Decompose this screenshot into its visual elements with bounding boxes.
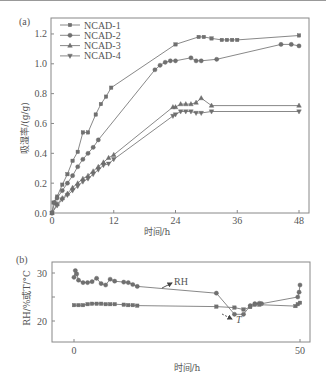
data-point	[81, 303, 84, 306]
y-tick-label: 0.4	[35, 148, 48, 159]
y-tick-label: 0.8	[35, 88, 48, 99]
data-point	[289, 42, 293, 46]
data-point	[220, 38, 223, 41]
data-point	[158, 63, 162, 67]
panel-a-legend: NCAD-1NCAD-2NCAD-3NCAD-4	[60, 20, 121, 62]
data-point	[109, 86, 112, 89]
data-point	[85, 281, 89, 285]
data-point	[215, 305, 218, 308]
data-point	[215, 57, 219, 61]
data-point	[75, 272, 79, 276]
data-point	[122, 303, 125, 306]
data-point	[61, 183, 64, 186]
data-point	[194, 59, 198, 63]
data-point	[298, 301, 301, 304]
data-point	[106, 155, 111, 159]
y-tick-label: 20	[37, 316, 47, 327]
data-point	[174, 43, 177, 46]
data-point	[199, 96, 204, 100]
data-point	[136, 304, 139, 307]
data-point	[86, 151, 90, 155]
panel-b: (b) 2030 050 RHT 时间/h RH/%或T/°C	[16, 254, 310, 373]
data-point	[104, 283, 108, 287]
data-point	[189, 56, 193, 60]
data-point	[297, 290, 301, 294]
legend-label: NCAD-4	[84, 50, 121, 61]
y-tick-label: 1.2	[35, 28, 48, 39]
data-point	[96, 138, 100, 142]
data-point	[66, 173, 69, 176]
y-tick-label: 0.0	[35, 208, 48, 219]
x-tick-label: 0	[50, 215, 55, 226]
data-point	[86, 303, 89, 306]
data-point	[72, 303, 75, 306]
data-point	[94, 113, 97, 116]
series-line	[52, 44, 299, 213]
data-point	[113, 303, 116, 306]
panel-a-x-ticks: 012243648	[50, 210, 305, 226]
data-point	[99, 302, 102, 305]
series-line	[74, 303, 300, 310]
data-point	[91, 145, 95, 149]
data-point	[90, 280, 94, 284]
data-point	[258, 303, 261, 306]
y-tick-label: 1.0	[35, 58, 48, 69]
data-point	[99, 102, 102, 105]
data-point	[214, 291, 218, 295]
data-point	[104, 95, 107, 98]
data-point	[77, 303, 80, 306]
x-tick-label: 48	[294, 215, 304, 226]
data-point	[99, 281, 103, 285]
legend-marker-icon	[68, 23, 71, 26]
x-tick-label: 12	[109, 215, 119, 226]
data-point	[71, 159, 74, 162]
data-point	[81, 281, 85, 285]
panel-a: (a) 0.00.20.40.60.81.01.2 012243648 NCAD…	[19, 16, 309, 237]
x-tick-label: 36	[232, 215, 242, 226]
data-point	[236, 38, 239, 41]
x-tick-label: 0	[72, 345, 77, 356]
data-point	[297, 34, 300, 37]
data-point	[76, 278, 80, 282]
data-point	[60, 189, 64, 193]
data-point	[249, 305, 252, 308]
series-ncad-2	[50, 42, 301, 215]
data-point	[173, 59, 177, 63]
data-point	[197, 35, 200, 38]
data-point	[297, 44, 301, 48]
data-point	[127, 303, 130, 306]
data-point	[65, 181, 69, 185]
data-point	[210, 37, 213, 40]
data-point	[233, 306, 236, 309]
data-point	[76, 165, 80, 169]
data-point	[225, 38, 228, 41]
data-point	[95, 302, 98, 305]
data-point	[76, 150, 79, 153]
data-point	[202, 35, 205, 38]
data-point	[279, 42, 283, 46]
legend-item-ncad-4: NCAD-4	[60, 50, 121, 61]
legend-marker-icon	[68, 33, 72, 37]
rh-arrow-icon	[162, 283, 172, 288]
data-point	[126, 281, 130, 285]
panel-a-x-axis-label: 时间/h	[144, 226, 171, 237]
data-point	[253, 303, 256, 306]
data-point	[111, 152, 116, 156]
data-point	[113, 279, 117, 283]
y-tick-label: 0.6	[35, 118, 48, 129]
series-line	[52, 112, 299, 214]
panel-a-y-axis-label: 吸湿率/(g/g)	[19, 102, 30, 154]
x-tick-label: 24	[171, 215, 181, 226]
data-point	[95, 276, 99, 280]
data-point	[108, 303, 111, 306]
data-point	[81, 157, 85, 161]
y-tick-label: 30	[37, 268, 47, 279]
data-point	[108, 277, 112, 281]
data-point	[55, 196, 59, 200]
panel-b-x-axis-label: 时间/h	[174, 362, 201, 373]
x-tick-label: 50	[295, 345, 305, 356]
data-point	[241, 312, 245, 316]
data-point	[86, 131, 89, 134]
y-tick-label: 0.2	[35, 178, 48, 189]
data-point	[242, 308, 245, 311]
